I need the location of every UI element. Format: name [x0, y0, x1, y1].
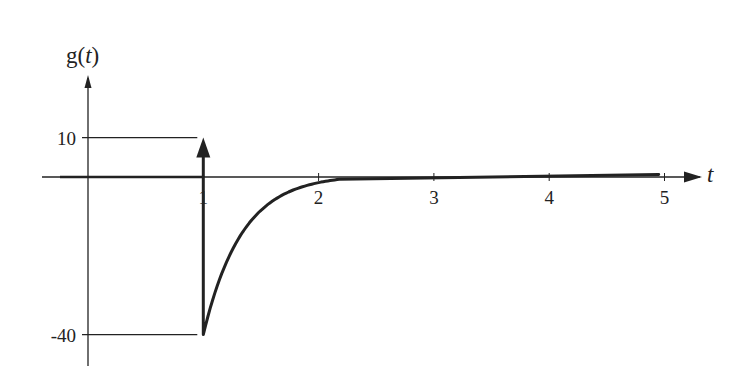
- x-axis-title: t: [707, 162, 714, 187]
- x-tick-label: 4: [544, 187, 554, 208]
- x-tick-label: 5: [660, 187, 670, 208]
- y-axis: [85, 75, 92, 366]
- impulse-arrowhead-icon: [196, 138, 210, 158]
- chart-canvas: 12345 10-40 g(t) t: [0, 0, 751, 384]
- y-tick-label: -40: [51, 325, 76, 346]
- x-tick-label: 2: [314, 187, 324, 208]
- y-axis-arrow-icon: [85, 75, 92, 88]
- y-axis-title: g(t): [66, 43, 99, 68]
- y-tick-label: 10: [57, 128, 76, 149]
- x-axis-arrow-icon: [684, 172, 702, 183]
- y-ticks: 10-40: [51, 128, 198, 346]
- x-tick-label: 3: [429, 187, 439, 208]
- impulse-arrow: [196, 138, 210, 177]
